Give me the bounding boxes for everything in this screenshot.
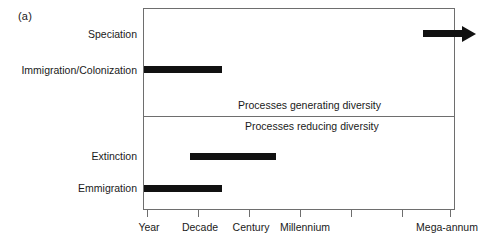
bar-emmigration — [144, 185, 222, 192]
zone-caption-reducing: Processes reducing diversity — [245, 121, 379, 132]
axis-tick-7 — [450, 210, 451, 217]
axis-tick-5 — [351, 210, 352, 217]
row-label-immigration-colonization: Immigration/Colonization — [21, 65, 137, 76]
row-label-speciation: Speciation — [88, 29, 137, 40]
arrow-right-icon — [462, 26, 476, 42]
axis-tick-label-year: Year — [138, 222, 159, 233]
axis-tick-1 — [147, 210, 148, 217]
bar-extinction — [190, 153, 276, 160]
axis-tick-2 — [198, 210, 199, 217]
axis-tick-3 — [249, 210, 250, 217]
row-label-extinction: Extinction — [91, 151, 137, 162]
axis-tick-label-century: Century — [233, 222, 270, 233]
row-label-emmigration: Emmigration — [78, 183, 137, 194]
axis-tick-label-millennium: Millennium — [280, 222, 330, 233]
figure-panel-a: (a) Speciation Immigration/Colonization … — [0, 0, 497, 251]
panel-label: (a) — [18, 10, 32, 22]
axis-tick-6 — [402, 210, 403, 217]
axis-tick-label-mega-annum: Mega-annum — [416, 222, 478, 233]
zone-divider-line — [143, 116, 455, 117]
bar-immigration-colonization — [144, 66, 222, 73]
zone-caption-generating: Processes generating diversity — [238, 100, 381, 111]
axis-tick-label-decade: Decade — [182, 222, 218, 233]
axis-tick-4 — [300, 210, 301, 217]
